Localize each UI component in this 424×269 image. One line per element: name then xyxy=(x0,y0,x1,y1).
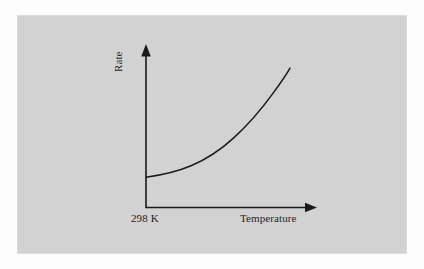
figure-panel xyxy=(18,16,406,253)
y-axis-label: Rate xyxy=(113,51,124,72)
x-axis-label: Temperature xyxy=(240,213,297,224)
origin-temperature-annotation: 298 K xyxy=(131,213,159,224)
figure-screenshot: Rate Temperature 298 K xyxy=(0,0,424,269)
